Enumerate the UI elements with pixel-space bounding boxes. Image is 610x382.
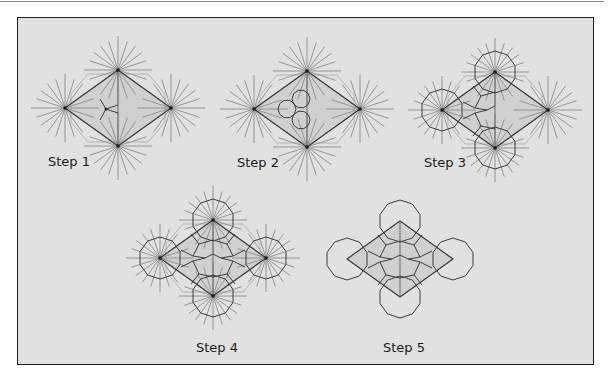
ray-line [151,258,160,287]
ray-line [360,100,389,109]
vertex-node [117,145,120,148]
ray-line [118,146,127,175]
ray-line [548,110,566,134]
ray-line [41,108,65,126]
ray-line [171,84,189,108]
ray-line [289,47,307,71]
ray-line [307,62,336,71]
vertex-node [494,147,497,150]
ray-line [495,54,519,72]
vertex-node [117,69,120,72]
ray-line [118,41,127,70]
ray-line [236,109,254,133]
ray-line [266,258,290,276]
ray-line [151,229,160,258]
vertex-node [306,146,309,149]
ray-line [433,81,442,110]
ray-line [283,147,307,165]
ray-line [360,109,369,138]
vertex-node [212,219,215,222]
ray-line [230,91,254,109]
ray-line [213,191,222,220]
ray-line [213,211,242,220]
ray-line [548,92,572,110]
ray-line [266,249,295,258]
ray-line [283,53,307,71]
ray-line [266,229,275,258]
ray-line [307,47,325,71]
ray-line [548,86,566,110]
step-2-label: Step 2 [237,155,279,170]
ray-line [56,108,65,137]
ray-line [171,79,180,108]
vertex-node [265,257,268,260]
ray-line [466,148,495,157]
ray-line [100,46,118,70]
ray-line [486,43,495,72]
ray-line [360,109,378,133]
ray-line [307,147,325,171]
ray-line [118,146,142,164]
ray-line [171,108,189,132]
ray-line [225,100,254,109]
step-1-label: Step 1 [48,154,90,169]
vertex-node [441,109,444,112]
ray-line [245,80,254,109]
step-3-label: Step 3 [424,155,466,170]
inner-node [105,108,108,111]
vertex-node [547,109,550,112]
vertex-node [253,108,256,111]
ray-line [213,202,237,220]
ray-line [298,42,307,71]
vertex-node [212,295,215,298]
ray-line [41,90,65,108]
ray-line [360,109,384,127]
ray-line [36,108,65,117]
ray-line [189,202,213,220]
ray-line [204,191,213,220]
ray-line [47,108,65,132]
ray-line [213,296,242,305]
ray-line [307,42,316,71]
ray-line [136,258,160,276]
ray-line [184,296,213,305]
ray-line [360,80,369,109]
ray-line [118,61,147,70]
vertex-node [64,107,67,110]
ray-line [471,54,495,72]
ray-line [495,148,504,177]
ray-line [100,146,118,170]
ray-line [298,147,307,176]
ray-line [36,99,65,108]
ray-line [548,110,572,128]
ray-line [548,81,557,110]
ray-line [230,109,254,127]
ray-line [171,90,195,108]
ray-line [109,146,118,175]
ray-line [131,258,160,267]
ray-line [495,63,524,72]
ray-line [266,240,290,258]
vertex-node [494,71,497,74]
ray-line [94,146,118,164]
ray-line [136,240,160,258]
ray-line [307,147,336,156]
ray-line [418,110,442,128]
vertex-node [159,257,162,260]
ray-line [307,147,331,165]
ray-line [204,296,213,325]
ray-line [360,85,378,109]
ray-line [278,147,307,156]
step-5-diagram [327,200,473,318]
ray-line [189,296,213,314]
ray-line [486,148,495,177]
ray-line [266,258,295,267]
ray-line [413,110,442,119]
ray-line [184,211,213,220]
ray-line [213,296,222,325]
ray-line [548,110,577,119]
ray-line [225,109,254,118]
ray-line [495,43,504,72]
ray-line [56,79,65,108]
ray-line [289,147,307,171]
